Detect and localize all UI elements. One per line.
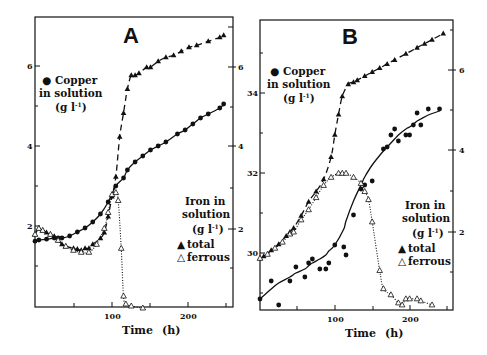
data-point-open-triangle <box>351 174 357 179</box>
data-point-open-triangle <box>381 286 387 291</box>
data-point-circle <box>164 140 169 145</box>
data-point-circle <box>36 238 41 243</box>
data-point-triangle <box>328 154 334 159</box>
data-point-circle <box>294 265 299 270</box>
panel-a-right-tick-6: 6 <box>238 62 244 72</box>
data-point-triangle <box>113 174 119 179</box>
data-point-open-triangle <box>369 219 375 224</box>
panel-a-x-axis <box>74 302 226 307</box>
data-point-circle <box>206 112 211 117</box>
panel-b-iron-legend-line1: Iron in <box>405 199 446 211</box>
data-point-triangle <box>125 86 131 91</box>
data-point-circle <box>288 279 293 284</box>
data-point-triangle <box>171 52 177 57</box>
data-point-circle <box>217 106 222 111</box>
data-point-circle <box>411 123 416 128</box>
data-point-circle <box>418 123 423 128</box>
panel-b-ferrous-label: ferrous <box>408 255 451 267</box>
data-point-triangle <box>336 112 342 117</box>
data-point-circle <box>269 279 274 284</box>
panel-a-letter: A <box>123 23 139 48</box>
data-point-triangle <box>392 57 398 62</box>
data-point-circle <box>198 116 203 121</box>
panel-b-copper-legend-line1: Copper <box>283 65 326 77</box>
data-point-triangle <box>148 64 154 69</box>
data-point-triangle <box>221 32 227 37</box>
panel-b-iron-legend-line3: (g l-1) <box>412 227 444 239</box>
data-point-triangle <box>306 199 312 204</box>
data-point-triangle <box>332 132 338 137</box>
data-point-circle <box>60 236 65 241</box>
panel-b-letter: B <box>342 24 358 49</box>
data-point-open-triangle <box>123 301 129 306</box>
data-point-open-triangle <box>118 245 124 250</box>
panel-a-left-tick-2: 2 <box>27 221 33 231</box>
data-point-circle <box>392 127 397 132</box>
panel-b-x-tick-100: 100 <box>327 314 344 324</box>
panel-b-right-tick-2: 2 <box>459 227 465 237</box>
data-point-triangle <box>321 176 327 181</box>
data-point-triangle <box>429 37 435 42</box>
panel-a-copper-legend-line1: Copper <box>55 74 98 86</box>
panel-a-ferrous-marker: △ <box>177 251 186 263</box>
data-point-circle <box>326 261 331 266</box>
panel-a-copper-legend-line2: in solution <box>39 87 103 99</box>
data-point-triangle <box>117 134 123 139</box>
panel-b-ferrous-marker: △ <box>398 255 407 267</box>
data-point-open-triangle <box>121 293 127 298</box>
data-point-open-triangle <box>366 197 372 202</box>
data-point-circle <box>67 234 72 239</box>
data-point-open-triangle <box>105 209 111 214</box>
data-point-circle <box>323 267 328 272</box>
data-point-circle <box>341 245 346 250</box>
data-point-circle <box>156 144 161 149</box>
data-point-circle <box>302 275 307 280</box>
data-point-circle <box>121 176 126 181</box>
data-point-circle <box>396 139 401 144</box>
data-point-circle <box>437 107 442 112</box>
panel-a-left-tick-6: 6 <box>27 61 33 71</box>
data-point-triangle <box>440 31 446 36</box>
data-point-open-triangle <box>115 198 121 203</box>
data-point-triangle <box>163 54 169 59</box>
data-point-circle <box>133 160 138 165</box>
panel-a-iron-legend-line1: Iron in <box>185 195 226 207</box>
panel-b-iron-legend-line2: solution <box>402 212 450 224</box>
data-point-circle <box>190 122 195 127</box>
data-point-circle <box>276 303 281 308</box>
panel-b-x-title: Time <box>345 327 376 340</box>
series-line <box>260 173 432 305</box>
panel-a-right-tick-4: 4 <box>238 141 244 151</box>
panel-b-total-marker: ▲ <box>398 242 407 254</box>
data-point-open-triangle <box>280 239 286 244</box>
data-point-circle <box>389 133 394 138</box>
panel-b-copper-legend-line3: (g l-1) <box>283 92 315 104</box>
figure: A 6 4 2 6 4 2 <box>0 0 487 355</box>
panel-a-left-tick-4: 4 <box>27 141 33 151</box>
data-point-circle <box>426 107 431 112</box>
panel-b-x-unit: (h) <box>385 327 403 340</box>
data-point-circle <box>370 179 375 184</box>
data-point-circle <box>407 133 412 138</box>
panel-a-iron-legend-line2: solution <box>182 208 230 220</box>
data-point-open-triangle <box>328 174 334 179</box>
data-point-circle <box>75 230 80 235</box>
panel-a-x-unit: (h) <box>162 324 180 337</box>
series-iron-ferrous <box>32 190 145 310</box>
data-point-triangle <box>136 70 142 75</box>
panel-b-copper-legend-line2: in solution <box>267 78 331 90</box>
panel-a: A 6 4 2 6 4 2 <box>27 17 244 337</box>
data-point-triangle <box>384 61 390 66</box>
data-point-circle <box>415 111 420 116</box>
panel-b-left-tick-30: 30 <box>247 248 259 258</box>
panel-a-total-label: total <box>187 238 215 250</box>
panel-b: B 34 32 30 6 4 2 <box>247 20 465 340</box>
panel-a-x-title: Time <box>122 324 153 337</box>
panel-b-x-axis <box>297 305 447 310</box>
panel-a-total-marker: ▲ <box>177 238 186 250</box>
data-point-circle <box>140 154 145 159</box>
data-point-circle <box>221 102 226 107</box>
series-line <box>35 104 224 241</box>
panel-a-x-tick-100: 100 <box>104 311 121 321</box>
panel-b-left-tick-32: 32 <box>247 168 258 178</box>
